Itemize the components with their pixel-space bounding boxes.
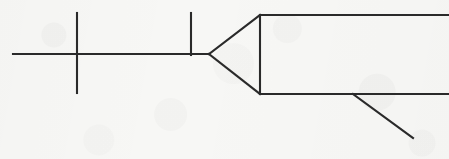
branch-diagonal — [353, 94, 413, 138]
stroke-group — [13, 13, 449, 138]
line-drawing-svg — [0, 0, 449, 159]
arrowhead-lower-edge — [209, 54, 260, 94]
arrowhead-upper-edge — [209, 15, 260, 54]
drawing-canvas — [0, 0, 449, 159]
